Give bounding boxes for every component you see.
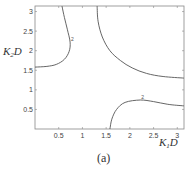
contour-plot: 0.511.522.530.511.522.53 22 K2D K1D (a) (0, 0, 196, 178)
contour-level-label: 2 (71, 36, 74, 42)
contour-upper-left (35, 6, 70, 67)
contour-lower-right (110, 100, 184, 129)
contour-upper-right (97, 6, 184, 78)
x-tick-label: 1 (80, 132, 84, 139)
contour-curves: 22 (35, 6, 184, 129)
y-tick-label: 2.5 (23, 28, 33, 35)
figure-caption: (a) (97, 151, 110, 165)
y-tick-label: 2 (29, 47, 33, 54)
contour-level-label: 2 (141, 94, 144, 100)
x-tick-label: 1.5 (101, 132, 111, 139)
y-tick-label: 1.5 (23, 67, 33, 74)
y-tick-label: 3 (29, 8, 33, 15)
x-axis-label: K1D (158, 136, 178, 150)
y-tick-label: 0.5 (23, 106, 33, 113)
axes-frame (35, 6, 184, 129)
x-tick-label: 2 (128, 132, 132, 139)
x-tick-label: 2.5 (149, 132, 159, 139)
y-tick-label: 1 (29, 86, 33, 93)
x-tick-label: 0.5 (54, 132, 64, 139)
plot-axes: 0.511.522.530.511.522.53 (23, 6, 184, 139)
y-axis-label: K2D (2, 45, 22, 59)
